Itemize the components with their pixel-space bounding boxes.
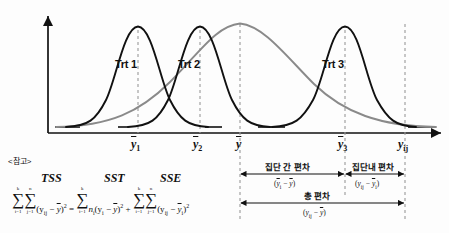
tss-label: TSS	[41, 171, 62, 186]
within-group-label: 집단내 편차	[352, 160, 394, 172]
trt2-label: Trt 2	[178, 58, 200, 70]
trt3-label: Trt 3	[322, 58, 344, 70]
between-group-label: 집단 간 편차	[265, 160, 310, 172]
overall-distribution-curve	[56, 24, 436, 128]
sst-label: SST	[104, 171, 125, 186]
diagram-root: Trt 1 Trt 2 Trt 3 y1 y2 y y3 yij 집단 간 편차…	[0, 0, 449, 233]
axis-label-y1bar: y1	[131, 137, 140, 153]
axis-label-yij: yij	[398, 137, 408, 153]
between-group-formula: (yi − y)	[274, 179, 295, 190]
total-deviation-formula: (yij − y)	[303, 208, 326, 219]
axes	[48, 16, 441, 133]
trt2-curve	[128, 27, 270, 128]
sse-label: SSE	[160, 171, 181, 186]
note-heading: <참고>	[8, 155, 31, 166]
total-deviation-label: 총 편차	[304, 189, 330, 201]
axis-label-ybar: y	[236, 137, 241, 152]
axis-label-y3bar: y3	[338, 137, 347, 153]
within-group-formula: (yij − yi)	[355, 179, 379, 190]
axis-label-y2bar: y2	[193, 137, 202, 153]
anova-equation: k∑i=1n∑j=1(yij − y)2 = k∑i=1ni(yi − y)2 …	[12, 186, 189, 216]
trt3-curve	[272, 27, 416, 128]
trt1-label: Trt 1	[115, 58, 137, 70]
